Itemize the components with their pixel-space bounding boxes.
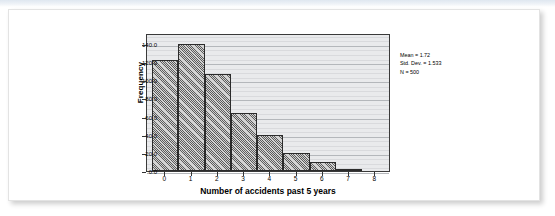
x-tick-mark: [269, 172, 270, 176]
x-tick-mark: [217, 172, 218, 176]
x-tick-mark: [243, 172, 244, 176]
histogram-bar: [283, 153, 309, 171]
x-tick-mark: [296, 172, 297, 176]
y-tick-label: 0.0: [117, 169, 157, 175]
document-page-card: Frequency 0.020.040.060.080.0100.0120.01…: [8, 9, 540, 201]
y-tick-mark: [142, 99, 146, 100]
histogram-bar: [231, 113, 257, 171]
y-tick-label: 140.0: [117, 42, 157, 48]
histogram-bar: [336, 169, 362, 171]
histogram-bars: [147, 35, 389, 171]
stat-mean: Mean = 1.72: [400, 51, 441, 59]
histogram-bar: [205, 74, 231, 171]
y-tick-label: 60.0: [117, 115, 157, 121]
x-tick-label: 8: [364, 175, 384, 182]
y-tick-mark: [142, 136, 146, 137]
y-tick-mark: [142, 45, 146, 46]
histogram-bar: [257, 135, 283, 171]
x-tick-label: 7: [338, 175, 358, 182]
x-tick-label: 2: [207, 175, 227, 182]
x-tick-label: 1: [181, 175, 201, 182]
x-axis-title: Number of accidents past 5 years: [146, 186, 390, 196]
histogram-bar: [310, 162, 336, 171]
y-tick-mark: [142, 118, 146, 119]
x-tick-mark: [374, 172, 375, 176]
stat-std-dev: Std. Dev. = 1.533: [400, 59, 441, 67]
x-tick-label: 0: [154, 175, 174, 182]
x-tick-mark: [322, 172, 323, 176]
histogram-figure: Frequency 0.020.040.060.080.0100.0120.01…: [9, 10, 541, 202]
y-tick-label: 40.0: [117, 133, 157, 139]
y-tick-mark: [142, 154, 146, 155]
screenshot-root: Frequency 0.020.040.060.080.0100.0120.01…: [0, 0, 555, 216]
y-tick-mark: [142, 63, 146, 64]
y-tick-label: 120.0: [117, 60, 157, 66]
histogram-bar: [178, 44, 204, 171]
y-tick-label: 20.0: [117, 151, 157, 157]
x-tick-label: 5: [286, 175, 306, 182]
page-top-band: [0, 0, 555, 7]
x-tick-label: 6: [312, 175, 332, 182]
y-tick-label: 100.0: [117, 78, 157, 84]
stat-n: N = 500: [400, 68, 441, 76]
x-tick-mark: [191, 172, 192, 176]
gridline: [147, 173, 389, 174]
x-tick-label: 3: [233, 175, 253, 182]
statistics-annotation: Mean = 1.72 Std. Dev. = 1.533 N = 500: [400, 51, 441, 76]
x-tick-label: 4: [259, 175, 279, 182]
y-tick-label: 80.0: [117, 96, 157, 102]
plot-area: [146, 34, 390, 172]
x-tick-mark: [164, 172, 165, 176]
y-tick-mark: [142, 81, 146, 82]
y-tick-mark: [142, 172, 146, 173]
x-tick-mark: [348, 172, 349, 176]
